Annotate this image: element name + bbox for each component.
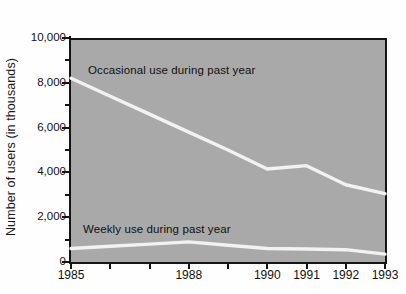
x-axis-tick-label: 1993 (372, 268, 399, 282)
x-axis-tick-labels: 198519881990199119921993 (0, 0, 406, 294)
chart-figure: Number of users (in thousands) 02,0004,0… (0, 0, 406, 294)
x-axis-tick-mark (384, 262, 386, 269)
x-axis-tick-mark (306, 262, 308, 269)
x-axis-tick-label: 1992 (332, 268, 359, 282)
x-axis-tick-mark (109, 262, 111, 269)
series-annotation-weekly-use: Weekly use during past year (83, 223, 231, 235)
x-axis-tick-label: 1988 (175, 268, 202, 282)
x-axis-tick-mark (188, 262, 190, 269)
x-axis-tick-mark (266, 262, 268, 269)
x-axis-tick-mark (227, 262, 229, 269)
x-axis-tick-label: 1985 (58, 268, 85, 282)
x-axis-tick-mark (149, 262, 151, 269)
x-axis-tick-mark (70, 262, 72, 269)
x-axis-tick-label: 1990 (254, 268, 281, 282)
series-annotation-occasional-use: Occasional use during past year (88, 64, 255, 76)
x-axis-tick-mark (345, 262, 347, 269)
x-axis-tick-label: 1991 (293, 268, 320, 282)
